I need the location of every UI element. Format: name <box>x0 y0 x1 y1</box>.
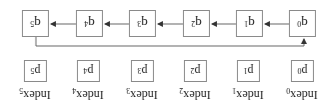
node-p3: p3 <box>131 60 154 82</box>
node-p5: p5 <box>24 60 47 82</box>
index-label-5: Index5 <box>10 86 60 102</box>
node-p4: p4 <box>77 60 100 82</box>
index-label-0: Index0 <box>277 86 327 102</box>
node-q5: q5 <box>22 10 49 37</box>
index-label-1: Index1 <box>223 86 273 102</box>
index-label-4: Index4 <box>63 86 113 102</box>
index-label-3: Index3 <box>117 86 167 102</box>
node-q1: q1 <box>236 10 263 37</box>
node-p1: p1 <box>237 60 260 82</box>
index-label-2: Index2 <box>170 86 220 102</box>
node-q4: q4 <box>76 10 103 37</box>
node-p2: p2 <box>184 60 207 82</box>
diagram-canvas: q0 q1 q2 q3 q4 q5 p0 p1 p2 p3 p4 p5 Inde… <box>0 0 332 110</box>
node-q3: q3 <box>129 10 156 37</box>
node-q0: q0 <box>289 10 316 37</box>
node-p0: p0 <box>291 60 314 82</box>
node-q2: q2 <box>183 10 210 37</box>
